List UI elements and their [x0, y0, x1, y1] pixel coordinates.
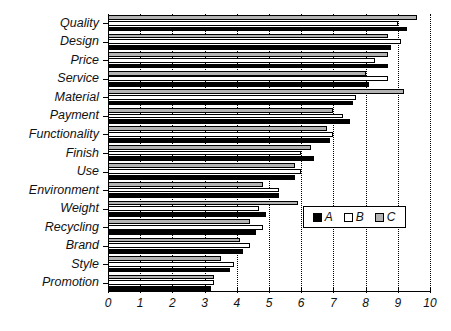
legend-label-b: B — [356, 210, 364, 224]
x-axis-tick — [205, 288, 206, 293]
bar-use-b — [108, 169, 301, 174]
bar-weight-c — [108, 201, 298, 206]
y-axis-tick — [103, 264, 108, 265]
x-axis-tick — [333, 288, 334, 293]
y-axis-tick — [103, 190, 108, 191]
chart-legend: ABC — [303, 206, 406, 228]
chart-figure: QualityDesignPriceServiceMaterialPayment… — [0, 0, 451, 331]
bar-brand-a — [108, 249, 243, 254]
y-axis-tick — [103, 153, 108, 154]
bar-quality-a — [108, 27, 407, 32]
bar-payment-c — [108, 108, 333, 113]
x-axis-tick — [269, 288, 270, 293]
bar-weight-a — [108, 212, 266, 217]
x-axis-tick — [301, 288, 302, 293]
bar-material-c — [108, 89, 404, 94]
bar-quality-b — [108, 21, 398, 26]
y-axis-tick — [103, 97, 108, 98]
x-axis-tick-label: 6 — [298, 296, 305, 310]
y-axis-label-design: Design — [60, 35, 99, 48]
y-axis-category-labels: QualityDesignPriceServiceMaterialPayment… — [0, 14, 103, 292]
y-axis-tick — [103, 23, 108, 24]
legend-swatch-b — [344, 213, 353, 222]
y-axis-tick — [103, 60, 108, 61]
y-axis-tick — [103, 79, 108, 80]
bar-environment-a — [108, 193, 279, 198]
bar-price-a — [108, 64, 388, 69]
gridline — [398, 14, 399, 292]
y-axis-tick — [103, 227, 108, 228]
y-axis-label-price: Price — [71, 54, 99, 67]
x-axis-tick-label: 8 — [362, 296, 369, 310]
x-axis-tick-label: 9 — [394, 296, 401, 310]
y-axis-tick — [103, 172, 108, 173]
bar-payment-b — [108, 114, 343, 119]
y-axis-tick — [103, 42, 108, 43]
legend-label-c: C — [387, 210, 396, 224]
bar-functionality-c — [108, 126, 327, 131]
bar-service-a — [108, 82, 369, 87]
bar-quality-c — [108, 15, 417, 20]
bar-design-a — [108, 45, 391, 50]
y-axis-tick — [103, 209, 108, 210]
gridline — [430, 14, 431, 292]
x-axis-tick — [430, 288, 431, 293]
bar-brand-b — [108, 243, 250, 248]
x-axis-tick — [172, 288, 173, 293]
bar-design-b — [108, 39, 401, 44]
bar-recycling-c — [108, 219, 250, 224]
y-axis-label-material: Material — [55, 91, 99, 104]
x-axis-tick — [140, 288, 141, 293]
bar-use-a — [108, 175, 295, 180]
x-axis-tick-label: 1 — [137, 296, 144, 310]
y-axis-tick — [103, 116, 108, 117]
bar-material-b — [108, 95, 356, 100]
bar-style-b — [108, 262, 234, 267]
bar-environment-b — [108, 188, 279, 193]
bar-weight-b — [108, 206, 259, 211]
y-axis-label-weight: Weight — [60, 202, 99, 215]
x-axis-tick — [366, 288, 367, 293]
bar-brand-c — [108, 238, 240, 243]
legend-item-c: C — [375, 210, 396, 224]
bar-recycling-b — [108, 225, 263, 230]
x-axis-tick-label: 10 — [423, 296, 436, 310]
y-axis-label-payment: Payment — [50, 109, 99, 122]
x-axis-tick-label: 2 — [169, 296, 176, 310]
bar-finish-c — [108, 145, 311, 150]
legend-swatch-a — [313, 213, 322, 222]
y-axis-label-style: Style — [71, 258, 99, 271]
bar-style-c — [108, 256, 221, 261]
y-axis-tick — [103, 134, 108, 135]
bar-price-b — [108, 58, 375, 63]
bar-material-a — [108, 101, 353, 106]
x-axis-tick-label: 3 — [201, 296, 208, 310]
legend-swatch-c — [375, 213, 384, 222]
plot-area: 012345678910 ABC — [108, 14, 430, 292]
x-axis-tick-label: 7 — [330, 296, 337, 310]
bar-payment-a — [108, 119, 350, 124]
y-axis-label-quality: Quality — [60, 17, 99, 30]
bar-promotion-b — [108, 280, 214, 285]
legend-item-b: B — [344, 210, 364, 224]
y-axis-label-use: Use — [77, 165, 99, 178]
y-axis-tick — [103, 283, 108, 284]
bar-promotion-c — [108, 275, 214, 280]
bar-use-c — [108, 163, 295, 168]
x-axis-tick-label: 0 — [105, 296, 112, 310]
legend-label-a: A — [325, 210, 333, 224]
bar-environment-c — [108, 182, 263, 187]
bar-functionality-b — [108, 132, 333, 137]
y-axis-label-functionality: Functionality — [29, 128, 99, 141]
x-axis-tick-label: 4 — [233, 296, 240, 310]
legend-item-a: A — [313, 210, 333, 224]
bar-functionality-a — [108, 138, 330, 143]
y-axis-label-recycling: Recycling — [45, 221, 99, 234]
x-axis-tick — [237, 288, 238, 293]
x-axis-tick — [108, 288, 109, 293]
y-axis-tick — [103, 246, 108, 247]
y-axis-label-service: Service — [57, 72, 99, 85]
bar-price-c — [108, 52, 388, 57]
bar-finish-a — [108, 156, 314, 161]
bar-recycling-a — [108, 230, 256, 235]
